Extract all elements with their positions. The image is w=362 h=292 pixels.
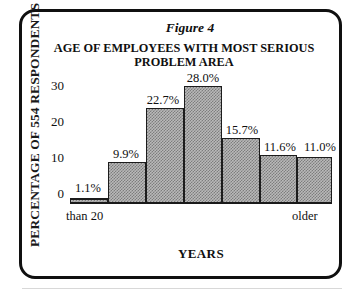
y-tick-20: 20 <box>36 114 64 130</box>
bar-value-label-2: 9.9% <box>104 147 148 162</box>
bar-value-label-3: 22.7% <box>138 93 188 108</box>
scan-artifact-line <box>22 288 342 289</box>
bar-6 <box>260 155 297 203</box>
y-tick-0: 0 <box>36 186 64 202</box>
y-tick-30: 30 <box>36 78 64 94</box>
chart-title: AGE OF EMPLOYEES WITH MOST SERIOUS PROBL… <box>42 41 326 69</box>
bar-value-label-5: 15.7% <box>217 123 267 138</box>
figure-number-label: Figure 4 <box>60 20 320 36</box>
x-axis-title: YEARS <box>70 246 332 262</box>
bar-value-label-4: 28.0% <box>178 71 228 86</box>
y-tick-10: 10 <box>36 150 64 166</box>
x-tick-left: than 20 <box>66 209 103 224</box>
y-axis-title: PERCENTAGE OF 554 RESPONDENTS <box>27 31 43 247</box>
bar-3 <box>146 108 184 203</box>
bar-value-label-7: 11.0% <box>296 140 344 155</box>
bar-value-label-1: 1.1% <box>66 181 110 196</box>
x-tick-right: older <box>292 209 318 224</box>
bar-2 <box>108 162 146 203</box>
figure-container: PERCENTAGE OF 554 RESPONDENTS Figure 4 A… <box>0 0 362 292</box>
bar-4 <box>184 86 222 203</box>
bar-7 <box>297 157 332 203</box>
x-axis-baseline <box>70 202 332 204</box>
